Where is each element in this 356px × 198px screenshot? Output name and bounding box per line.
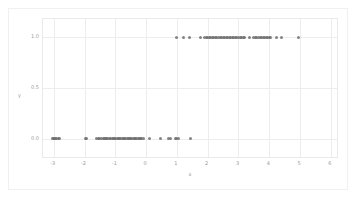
x-tick-label: -3 [50,161,55,166]
data-point [182,36,185,39]
x-tick-label: 6 [328,161,331,166]
data-point [248,36,251,39]
data-point [269,36,272,39]
data-point [169,137,172,140]
plot-area [42,18,338,158]
x-tick-label: 4 [267,161,270,166]
x-tick-label: 5 [297,161,300,166]
x-tick-label: 2 [205,161,208,166]
scatter-plot-figure: -3-2-10123456 0.00.51.0 x y [0,0,356,198]
x-tick-label: 0 [144,161,147,166]
y-axis-title: y [18,93,21,98]
data-point [243,36,246,39]
y-tick-label: 0.0 [28,135,39,140]
data-point [148,137,151,140]
gridline-horizontal [43,88,337,89]
x-tick-label: 1 [174,161,177,166]
data-point [280,36,283,39]
x-tick-label: 3 [236,161,239,166]
y-tick-label: 0.5 [28,85,39,90]
y-tick-label: 1.0 [28,34,39,39]
data-point [142,137,145,140]
data-point [297,36,300,39]
data-point [175,36,178,39]
x-axis-title: x [189,172,192,177]
x-tick-label: -1 [112,161,117,166]
data-point [188,36,191,39]
x-tick-label: -2 [81,161,86,166]
